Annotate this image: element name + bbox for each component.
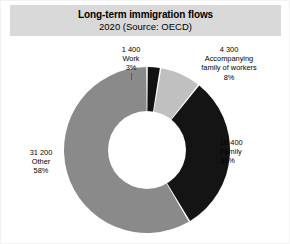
leader-line-work — [131, 73, 132, 80]
slice-percent-other: 58% — [13, 166, 69, 175]
slice-label-accompanying-family-of-workers: 4 300 Accompanying family of workers 8% — [177, 45, 281, 82]
slice-name-accompanying-line1: Accompanying — [177, 54, 281, 63]
donut-chart — [64, 67, 230, 233]
chart-subtitle: 2020 (Source: OECD) — [99, 21, 192, 33]
donut-svg — [64, 67, 230, 233]
slice-label-other: 31 200 Other 58% — [13, 148, 69, 176]
slice-label-work: 1 400 Work 3% — [105, 45, 157, 73]
slice-name-other: Other — [13, 157, 69, 166]
chart-figure: Long-term immigration flows 2020 (Source… — [0, 0, 290, 244]
donut-hole — [108, 111, 186, 189]
slice-percent-family: 31% — [220, 156, 280, 165]
chart-title-banner: Long-term immigration flows 2020 (Source… — [10, 5, 281, 36]
slice-name-family: Family — [220, 147, 280, 156]
slice-name-accompanying-line2: family of workers — [177, 63, 281, 72]
slice-percent-work: 3% — [105, 63, 157, 72]
slice-value-accompanying: 4 300 — [177, 45, 281, 54]
slice-label-family: 16 400 Family 31% — [220, 138, 280, 166]
slice-percent-accompanying: 8% — [177, 73, 281, 82]
slice-value-work: 1 400 — [105, 45, 157, 54]
page-title: Long-term immigration flows — [78, 9, 213, 21]
slice-name-work: Work — [105, 54, 157, 63]
slice-value-family: 16 400 — [220, 138, 280, 147]
slice-value-other: 31 200 — [13, 148, 69, 157]
